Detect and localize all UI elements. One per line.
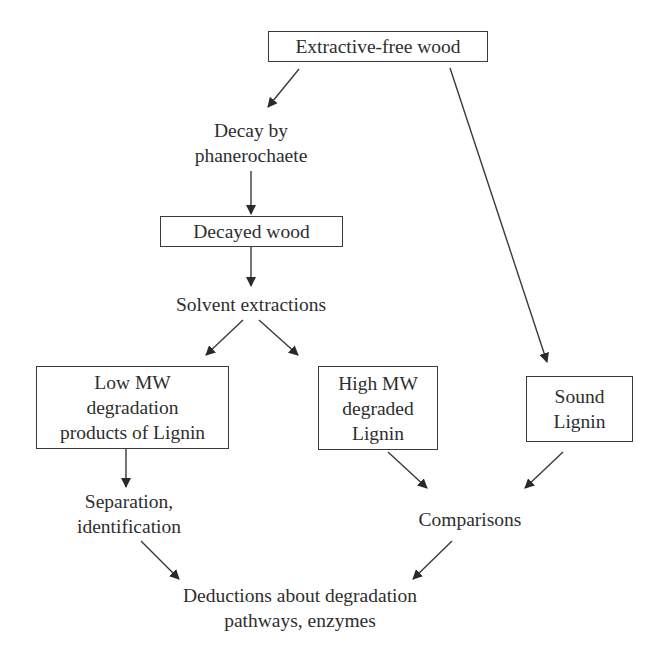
node-sound-lignin: Sound Lignin [526,376,633,442]
arrow-sound-lignin-to-comparisons [525,452,563,488]
node-deductions: Deductions about degradation pathways, e… [150,581,450,635]
arrows-layer [0,0,666,657]
arrow-extractive-to-decay [268,69,299,107]
arrow-comparisons-to-deductions [413,541,452,579]
arrow-high-mw-to-comparisons [388,452,427,488]
node-solvent-extractions: Solvent extractions [150,290,352,318]
node-extractive-free-wood: Extractive-free wood [268,31,488,62]
node-low-mw-products: Low MW degradation products of Lignin [36,366,229,449]
arrow-solvent-to-low-mw [206,320,243,355]
arrow-extractive-to-sound-lignin [450,68,547,362]
arrow-separation-to-deductions [141,541,179,579]
node-high-mw-degraded-lignin: High MW degraded Lignin [318,366,438,450]
node-decayed-wood: Decayed wood [160,216,343,247]
node-separation-identification: Separation, identification [66,487,192,541]
node-comparisons: Comparisons [405,505,535,533]
node-decay-by-phanerochaete: Decay by phanerochaete [161,117,341,169]
arrow-solvent-to-high-mw [259,320,298,355]
